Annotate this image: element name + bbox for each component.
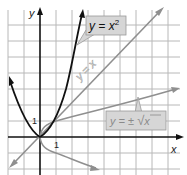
y-axis-arrow-icon: [37, 7, 43, 15]
arrow-icon: [79, 9, 85, 18]
x-axis-arrow-icon: [176, 134, 184, 140]
sqrt-label-prefix: y = ±: [109, 115, 134, 127]
tick-label-x-1: 1: [54, 140, 59, 150]
function-graph: y x 1 1 y = x y = x2 y = ± √x: [0, 0, 187, 175]
parabola-label-exponent: 2: [115, 18, 120, 27]
arrow-icon: [171, 87, 180, 93]
parabola-label: y = x: [88, 19, 116, 33]
svg-text:y = ± √x: y = ± √x: [109, 113, 150, 128]
arrow-icon: [9, 76, 14, 86]
arrow-icon: [90, 165, 100, 171]
sqrt-label-radicand: x: [143, 115, 150, 127]
y-axis-label: y: [28, 7, 36, 19]
x-axis-label: x: [170, 143, 177, 155]
tick-label-y-1: 1: [32, 116, 37, 126]
